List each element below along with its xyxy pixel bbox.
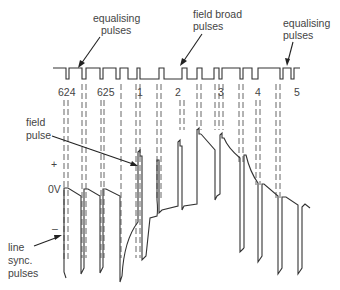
line-number-2: 2 [175,86,181,98]
svg-text:field broad: field broad [193,8,242,20]
dashed-guides [64,84,280,262]
label-field-pulse: field pulse [26,116,51,141]
line-number-625: 625 [97,86,115,98]
svg-text:pulses: pulses [193,20,223,32]
line-number-5: 5 [294,86,300,98]
label-field-broad-pulses: field broad pulses [193,8,242,32]
line-number-624: 624 [58,86,76,98]
plus-label: + [51,158,57,170]
arrow-equalising-left [78,37,100,68]
tv-field-sync-diagram: equalising pulses field broad pulses equ… [0,0,340,290]
line-numbers: 624 625 1 2 3 4 5 [58,86,300,98]
arrow-field-pulse [52,136,138,166]
svg-text:sync.: sync. [8,254,33,266]
svg-text:equalising: equalising [283,17,330,29]
arrow-equalising-right [285,42,293,66]
svg-text:equalising: equalising [93,12,140,24]
label-equalising-pulses-left: equalising pulses [93,12,140,36]
label-line-sync-pulses: line sync. pulses [8,241,38,279]
svg-text:line: line [8,241,25,253]
minus-label: – [52,222,58,234]
svg-text:field: field [26,116,45,128]
svg-text:pulses: pulses [101,24,131,36]
zero-volt-label: 0V [48,183,61,195]
svg-text:pulses: pulses [283,29,313,41]
label-equalising-pulses-right: equalising pulses [283,17,330,41]
arrow-field-broad [180,34,202,66]
top-sync-waveform [53,68,300,79]
line-number-4: 4 [255,86,261,98]
arrow-line-sync [34,235,62,246]
svg-text:pulses: pulses [8,267,38,279]
svg-text:pulse: pulse [26,129,51,141]
